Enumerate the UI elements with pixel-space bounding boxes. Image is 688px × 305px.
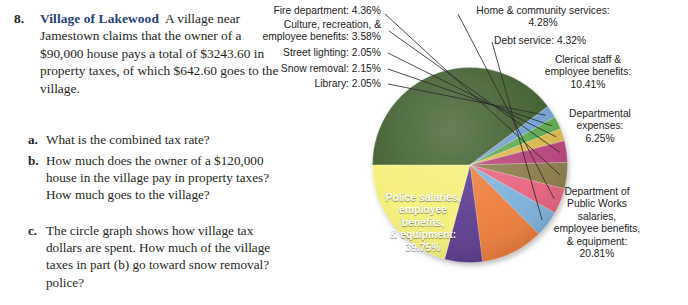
circle-graph: Police salaries, employee benefits, & eq… [230, 0, 688, 305]
part-c-letter: c. [28, 222, 46, 239]
slice-label-police: Police salaries, employee benefits, & eq… [361, 192, 485, 254]
callout-clerical-staff: Clerical staff & employee benefits: 10.4… [518, 54, 658, 91]
callout-fire-department: Fire department: 4.36% [258, 5, 381, 17]
part-b-letter: b. [28, 152, 46, 169]
callout-culture-recreation: Culture, recreation, & employee benefits… [230, 19, 381, 44]
callout-snow-removal: Snow removal: 2.15% [233, 63, 381, 75]
problem-number: 8. [14, 10, 24, 27]
callout-street-lighting: Street lighting: 2.05% [233, 47, 381, 59]
callout-library: Library: 2.05% [233, 78, 381, 90]
callout-debt-service: Debt service: 4.32% [494, 35, 654, 47]
callout-home-community-services: Home & community services: 4.28% [453, 5, 633, 30]
problem-title: Village of Lakewood [40, 11, 159, 26]
callout-public-works: Department of Public Works salaries, emp… [527, 186, 667, 260]
callout-departmental-expenses: Departmental expenses: 6.25% [542, 108, 658, 145]
part-a-letter: a. [28, 131, 46, 148]
